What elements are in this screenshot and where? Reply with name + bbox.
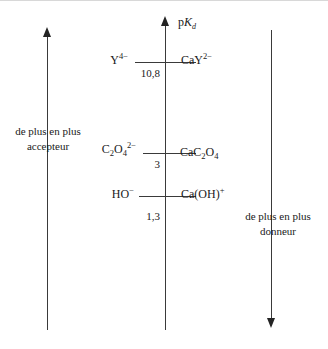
species-right-level-3: Ca(OH)+ (181, 186, 224, 200)
caption-donor: de plus en plus donneur (232, 209, 324, 239)
figure-top-border (0, 0, 328, 1)
species-right-formula-2a: CaC (180, 145, 201, 159)
caption-donor-line1: de plus en plus (232, 209, 324, 224)
species-left-charge-1: 4− (119, 51, 128, 61)
species-right-sub-2b: 4 (214, 151, 218, 161)
species-right-level-1: CaY2− (181, 52, 212, 66)
caption-acceptor-line2: accepteur (2, 139, 94, 154)
pkd-scale-figure: pKd Y4− CaY2− 10,8 C2O42− CaC2O4 3 HO− C… (0, 0, 328, 349)
acceptor-arrow-line (47, 33, 48, 330)
species-right-charge-3: + (220, 185, 225, 195)
species-right-charge-1: 2− (203, 51, 212, 61)
donor-arrow-line (271, 30, 272, 320)
species-left-formula-3: HO (112, 187, 129, 201)
species-left-formula-1: Y (110, 53, 119, 67)
arrow-up-icon (161, 16, 169, 26)
pk-value-level-3: 1,3 (114, 211, 160, 222)
caption-acceptor: de plus en plus accepteur (2, 124, 94, 154)
species-left-formula-2b: O (114, 142, 123, 156)
pkd-axis-line (165, 22, 166, 330)
arrow-up-icon (43, 27, 51, 37)
axis-label-subscript: d (192, 22, 196, 31)
species-left-level-1: Y4− (60, 52, 128, 66)
species-left-charge-3: − (129, 185, 134, 195)
species-left-charge-2: 2− (127, 140, 136, 150)
species-right-formula-2b: O (206, 145, 215, 159)
axis-label-symbol: K (184, 15, 192, 29)
pk-value-level-1: 10,8 (112, 68, 160, 79)
arrow-down-icon (267, 318, 275, 328)
species-left-formula-2a: C (102, 142, 110, 156)
species-right-level-2: CaC2O4 (180, 146, 219, 161)
axis-label-pkd: pKd (178, 15, 196, 31)
caption-acceptor-line1: de plus en plus (2, 124, 94, 139)
species-right-formula-1: CaY (181, 53, 203, 67)
species-right-formula-3: Ca(OH) (181, 187, 220, 201)
caption-donor-line2: donneur (232, 224, 324, 239)
pk-value-level-2: 3 (120, 159, 160, 170)
species-left-level-3: HO− (68, 186, 134, 200)
